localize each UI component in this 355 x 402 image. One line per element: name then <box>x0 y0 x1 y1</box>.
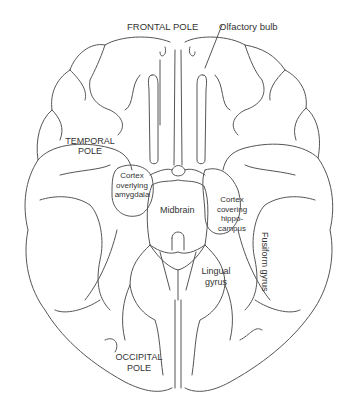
occipital-gyri <box>105 300 262 388</box>
label-amygdala-line1: Cortex <box>110 171 154 181</box>
right-olfactory-tract <box>197 75 207 164</box>
left-hemisphere-outline <box>25 37 172 391</box>
label-hippocampus-line4: campus <box>212 224 252 234</box>
label-hippocampus-line2: covering <box>212 205 252 215</box>
left-fusiform-sulcus <box>55 230 117 312</box>
label-amygdala-line3: amygdala <box>110 190 154 200</box>
left-temporal-lobe <box>38 144 132 310</box>
label-occipital-pole-line1: OCCIPITAL <box>108 352 170 363</box>
label-olfactory-bulb: Olfactory bulb <box>219 21 278 32</box>
label-cortex-overlying-amygdala: Cortex overlying amygdala <box>110 171 154 200</box>
midbrain-outline <box>147 180 208 253</box>
label-frontal-pole: FRONTAL POLE <box>127 21 198 32</box>
label-lingual-line1: Lingual <box>195 266 237 277</box>
label-temporal-pole: TEMPORAL POLE <box>60 137 120 156</box>
label-midbrain: Midbrain <box>160 205 195 216</box>
label-lingual-gyrus: Lingual gyrus <box>195 266 237 288</box>
right-lingual-gyrus <box>192 245 232 375</box>
label-occipital-pole: OCCIPITAL POLE <box>108 352 170 374</box>
label-occipital-pole-line2: POLE <box>108 363 170 374</box>
label-hippocampus-line3: hippo- <box>212 214 252 224</box>
label-hippocampus-line1: Cortex <box>212 195 252 205</box>
label-cortex-covering-hippocampus: Cortex covering hippo- campus <box>212 195 252 233</box>
label-fusiform-gyrus: Fusiform gyrus <box>260 232 270 292</box>
brain-inferior-view-diagram <box>0 0 355 402</box>
optic-chiasm <box>150 166 205 177</box>
longitudinal-fissure <box>174 50 182 165</box>
right-frontal-gyri <box>189 45 306 140</box>
left-olfactory-tract <box>148 75 158 164</box>
label-amygdala-line2: overlying <box>110 181 154 191</box>
label-temporal-pole-line2: POLE <box>60 147 120 157</box>
label-lingual-line2: gyrus <box>195 277 237 288</box>
